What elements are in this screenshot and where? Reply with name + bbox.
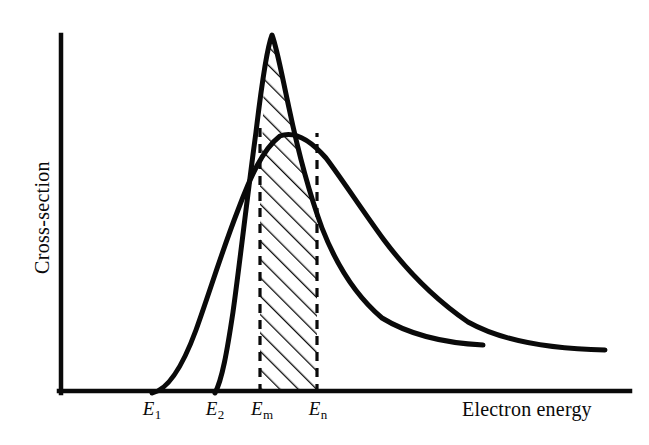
overlap-hatched-region (258, 30, 320, 395)
tick-label-em-base: E (251, 398, 263, 419)
broad-cross-section-curve (152, 134, 605, 393)
tick-label-e1: E1 (143, 398, 162, 423)
tick-label-en: En (309, 398, 328, 423)
tick-label-e1-sub: 1 (155, 407, 162, 422)
tick-label-e1-base: E (143, 398, 155, 419)
sharp-cross-section-curve (215, 35, 483, 393)
tick-label-e2: E2 (206, 398, 225, 423)
tick-label-en-base: E (309, 398, 321, 419)
tick-label-e2-base: E (206, 398, 218, 419)
plot-area (0, 0, 649, 445)
tick-label-e2-sub: 2 (218, 407, 225, 422)
cross-section-figure: Cross-section Electron energy E1 E2 Em E… (0, 0, 649, 445)
y-axis-title: Cross-section (31, 138, 54, 298)
x-axis-title: Electron energy (462, 398, 592, 421)
tick-label-en-sub: n (321, 407, 328, 422)
tick-label-em: Em (251, 398, 273, 423)
tick-label-em-sub: m (263, 407, 273, 422)
